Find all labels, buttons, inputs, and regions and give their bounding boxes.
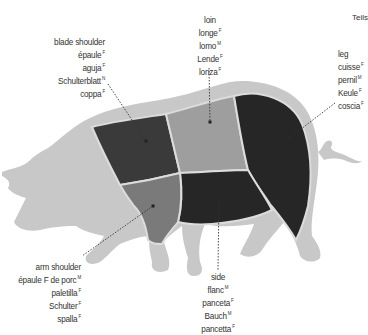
gender-marker: F xyxy=(361,101,364,106)
label-arm-shoulder: arm shoulder épaule F de porcM paletilla… xyxy=(18,263,81,325)
label-leg: leg cuisseF pernilM KeuleF cosciaF xyxy=(338,50,364,112)
label-english: loin xyxy=(190,16,230,26)
gender-marker: F xyxy=(78,301,81,306)
translation-fr: épaule F de porc xyxy=(18,276,76,285)
translation-it: coscia xyxy=(338,102,360,111)
translation-es: aguja xyxy=(82,64,101,73)
gender-marker: F xyxy=(361,62,364,67)
label-side: side flancM pancetaF BauchM pancettaF xyxy=(195,273,241,335)
gender-marker: F xyxy=(102,63,105,68)
gender-marker: F xyxy=(220,54,223,59)
label-english: blade shoulder xyxy=(54,38,105,48)
gender-marker: M xyxy=(225,285,229,290)
gender-marker: M xyxy=(228,311,232,316)
translation-es: panceta xyxy=(202,299,230,308)
label-english: leg xyxy=(338,50,364,60)
translation-de: Lende xyxy=(197,55,219,64)
gender-marker: F xyxy=(359,88,362,93)
gender-marker: F xyxy=(231,298,234,303)
translation-it: coppa xyxy=(80,90,101,99)
gender-marker: F xyxy=(102,50,105,55)
gender-marker: N xyxy=(102,76,105,81)
translation-it: spalla xyxy=(57,315,77,324)
translation-de: Schulter xyxy=(49,302,77,311)
gender-marker: M xyxy=(77,275,81,280)
translation-it: pancetta xyxy=(201,325,231,334)
gender-marker: F xyxy=(219,28,222,33)
marker-blade-shoulder xyxy=(145,140,148,143)
marker-arm-shoulder xyxy=(152,205,155,208)
label-loin: loin longeF lomoM LendeF lonzaF xyxy=(190,16,230,78)
translation-fr: épaule xyxy=(78,51,101,60)
translation-de: Schulterblatt xyxy=(58,77,101,86)
label-blade-shoulder: blade shoulder épauleF agujaF Schulterbl… xyxy=(54,38,105,100)
translation-es: lomo xyxy=(199,42,216,51)
gender-marker: M xyxy=(358,75,362,80)
translation-fr: flanc xyxy=(208,286,224,295)
translation-fr: cuisse xyxy=(338,63,360,72)
gender-marker: F xyxy=(232,324,235,329)
translation-de: Bauch xyxy=(205,312,227,321)
gender-marker: F xyxy=(78,288,81,293)
pig-tail xyxy=(318,140,362,163)
translation-es: pernil xyxy=(338,76,357,85)
gender-marker: F xyxy=(78,314,81,319)
translation-de: Keule xyxy=(338,89,358,98)
label-english: side xyxy=(195,273,241,283)
gender-marker: F xyxy=(219,67,222,72)
corner-text: Teils xyxy=(352,13,368,22)
translation-fr: longe xyxy=(199,29,218,38)
translation-es: paletilla xyxy=(51,289,77,298)
marker-loin xyxy=(209,121,212,124)
gender-marker: M xyxy=(217,41,221,46)
label-english: arm shoulder xyxy=(18,263,81,273)
translation-it: lonza xyxy=(199,68,218,77)
gender-marker: F xyxy=(102,89,105,94)
